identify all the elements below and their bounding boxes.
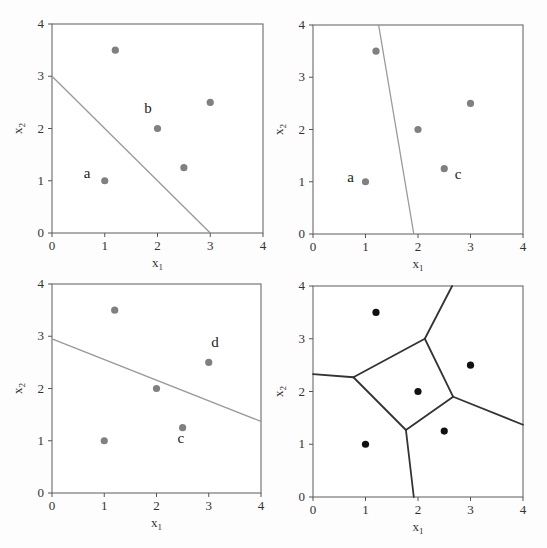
y-tick-label: 0: [38, 225, 45, 240]
data-point: [101, 437, 108, 444]
y-tick-label: 1: [299, 436, 306, 451]
x-tick-label: 0: [49, 498, 56, 513]
y-tick-label: 0: [299, 226, 306, 241]
y-tick-label: 2: [299, 122, 306, 137]
y-tick-label: 4: [299, 278, 306, 293]
data-point: [372, 48, 379, 55]
y-tick-label: 1: [38, 173, 45, 188]
data-point: [467, 100, 474, 107]
y-tick-label: 3: [299, 69, 306, 84]
y-tick-label: 3: [38, 328, 45, 343]
y-tick-label: 1: [38, 433, 45, 448]
data-point: [205, 359, 212, 366]
y-axis-label: x2: [10, 383, 27, 394]
point-annotation-c: c: [177, 430, 184, 446]
point-annotation-d: d: [211, 334, 219, 350]
x-tick-label: 4: [260, 238, 267, 253]
data-point: [101, 177, 108, 184]
data-point: [414, 388, 421, 395]
x-axis-label: x1: [151, 515, 162, 532]
x-tick-label: 3: [207, 238, 214, 253]
y-tick-label: 0: [38, 485, 45, 500]
y-tick-label: 4: [38, 16, 45, 31]
x-axis-label: x1: [413, 519, 424, 536]
y-tick-label: 3: [38, 68, 45, 83]
x-tick-label: 0: [310, 502, 317, 517]
point-annotation-c: c: [455, 166, 462, 182]
x-tick-label: 2: [154, 238, 161, 253]
x-tick-label: 2: [415, 502, 422, 517]
panel-bottom-right: 0123401234x1x2: [271, 278, 527, 536]
x-tick-label: 3: [467, 502, 474, 517]
data-point: [180, 164, 187, 171]
data-point: [362, 178, 369, 185]
panel-bottom-left: 0123401234x1x2dc: [10, 276, 265, 532]
data-point: [467, 362, 474, 369]
data-point: [441, 427, 448, 434]
y-tick-label: 1: [299, 174, 306, 189]
x-tick-label: 0: [310, 239, 317, 254]
x-axis-label: x1: [152, 255, 163, 272]
y-tick-label: 2: [299, 384, 306, 399]
x-tick-label: 0: [49, 238, 56, 253]
panel-top-right: 0123401234x1x2ac: [271, 17, 527, 273]
data-point: [207, 99, 214, 106]
x-tick-label: 4: [520, 239, 527, 254]
data-point: [153, 385, 160, 392]
y-axis-label: x2: [10, 123, 27, 134]
y-tick-label: 3: [299, 331, 306, 346]
y-tick-label: 2: [38, 381, 45, 396]
data-point: [414, 126, 421, 133]
y-axis-label: x2: [271, 124, 288, 135]
data-point: [154, 125, 161, 132]
data-point: [112, 47, 119, 54]
x-tick-label: 3: [467, 239, 474, 254]
y-axis-label: x2: [271, 386, 288, 397]
y-tick-label: 2: [38, 121, 45, 136]
data-point: [111, 307, 118, 314]
x-tick-label: 1: [102, 238, 109, 253]
x-tick-label: 2: [415, 239, 422, 254]
x-tick-label: 1: [362, 239, 369, 254]
data-point: [362, 441, 369, 448]
x-tick-label: 4: [258, 498, 265, 513]
panel-top-left: 0123401234x1x2ab: [10, 16, 267, 272]
x-tick-label: 3: [206, 498, 213, 513]
x-tick-label: 1: [362, 502, 369, 517]
point-annotation-a: a: [84, 165, 91, 181]
y-tick-label: 0: [299, 489, 306, 504]
x-axis-label: x1: [413, 256, 424, 273]
point-annotation-b: b: [144, 100, 152, 116]
x-tick-label: 1: [101, 498, 108, 513]
figure-canvas: 0123401234x1x2ab0123401234x1x2ac01234012…: [0, 0, 547, 548]
point-annotation-a: a: [347, 169, 354, 185]
data-point: [372, 309, 379, 316]
data-point: [441, 165, 448, 172]
x-tick-label: 4: [520, 502, 527, 517]
x-tick-label: 2: [153, 498, 160, 513]
y-tick-label: 4: [38, 276, 45, 291]
y-tick-label: 4: [299, 17, 306, 32]
